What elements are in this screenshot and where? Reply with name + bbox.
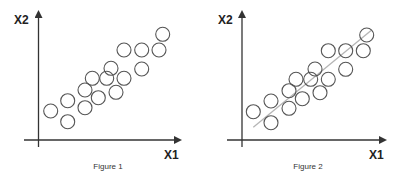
- data-point: [152, 43, 166, 57]
- data-point: [156, 27, 170, 41]
- data-point: [91, 91, 105, 105]
- data-point: [61, 94, 75, 108]
- figure-caption: Figure 2: [293, 162, 323, 171]
- data-point: [135, 43, 149, 57]
- data-point: [117, 71, 131, 85]
- data-point: [264, 116, 278, 130]
- y-axis-label: X2: [218, 13, 233, 27]
- data-point: [78, 101, 92, 115]
- data-point: [339, 62, 353, 76]
- data-point: [321, 72, 335, 86]
- figure-2: X2 X1 Figure 2: [218, 12, 385, 171]
- data-point: [246, 105, 260, 119]
- data-point: [321, 44, 335, 58]
- figure-caption: Figure 1: [93, 162, 123, 171]
- data-point: [289, 72, 303, 86]
- data-point: [44, 104, 58, 118]
- data-point: [356, 44, 370, 58]
- x-axis-label: X1: [369, 148, 384, 162]
- data-point: [85, 71, 99, 85]
- data-point: [360, 28, 374, 42]
- data-point: [295, 92, 309, 106]
- data-point: [117, 43, 131, 57]
- y-axis-label: X2: [14, 13, 29, 27]
- scatter-points: [44, 27, 170, 128]
- data-point: [109, 85, 123, 99]
- data-point: [61, 115, 75, 129]
- data-point: [264, 94, 278, 108]
- x-axis-label: X1: [164, 148, 179, 162]
- data-point: [313, 86, 327, 100]
- data-point: [135, 62, 149, 76]
- regression-line: [253, 30, 371, 127]
- data-point: [282, 101, 296, 115]
- figure-1: X2 X1 Figure 1: [14, 12, 180, 171]
- figures-canvas: X2 X1 Figure 1 X2 X1 Figure 2: [0, 0, 401, 180]
